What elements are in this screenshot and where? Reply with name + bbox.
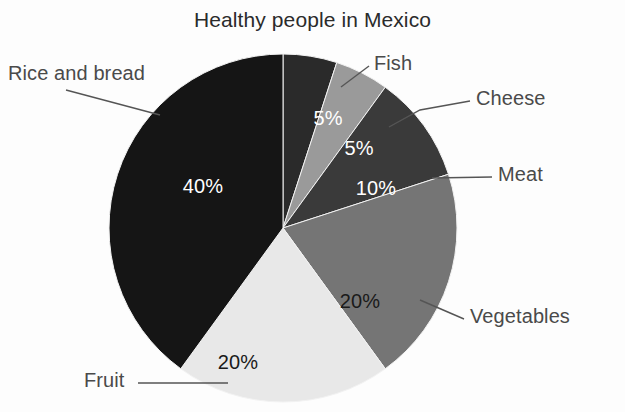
slice-value-rice-and-bread: 40% [183,175,223,198]
pie-label-cheese: Cheese [476,87,546,110]
slice-value-fruit: 20% [218,351,258,374]
pie-label-meat: Meat [498,163,543,186]
pie-label-vegetables: Vegetables [470,305,570,328]
pie-slice-layer [109,54,457,402]
leader-line-rice-and-bread [66,90,160,115]
slice-value-fish: 5% [313,107,342,130]
pie-label-fish: Fish [374,52,412,75]
pie-label-fruit: Fruit [84,369,125,392]
pie-chart-figure: Healthy people in Mexico 5%5%10%20%20%40… [0,0,625,412]
slice-value-vegetables: 20% [340,290,380,313]
leader-line-meat [432,177,492,178]
slice-value-meat: 10% [356,177,396,200]
pie-label-rice-and-bread: Rice and bread [8,62,145,85]
slice-value-cheese: 5% [344,137,373,160]
